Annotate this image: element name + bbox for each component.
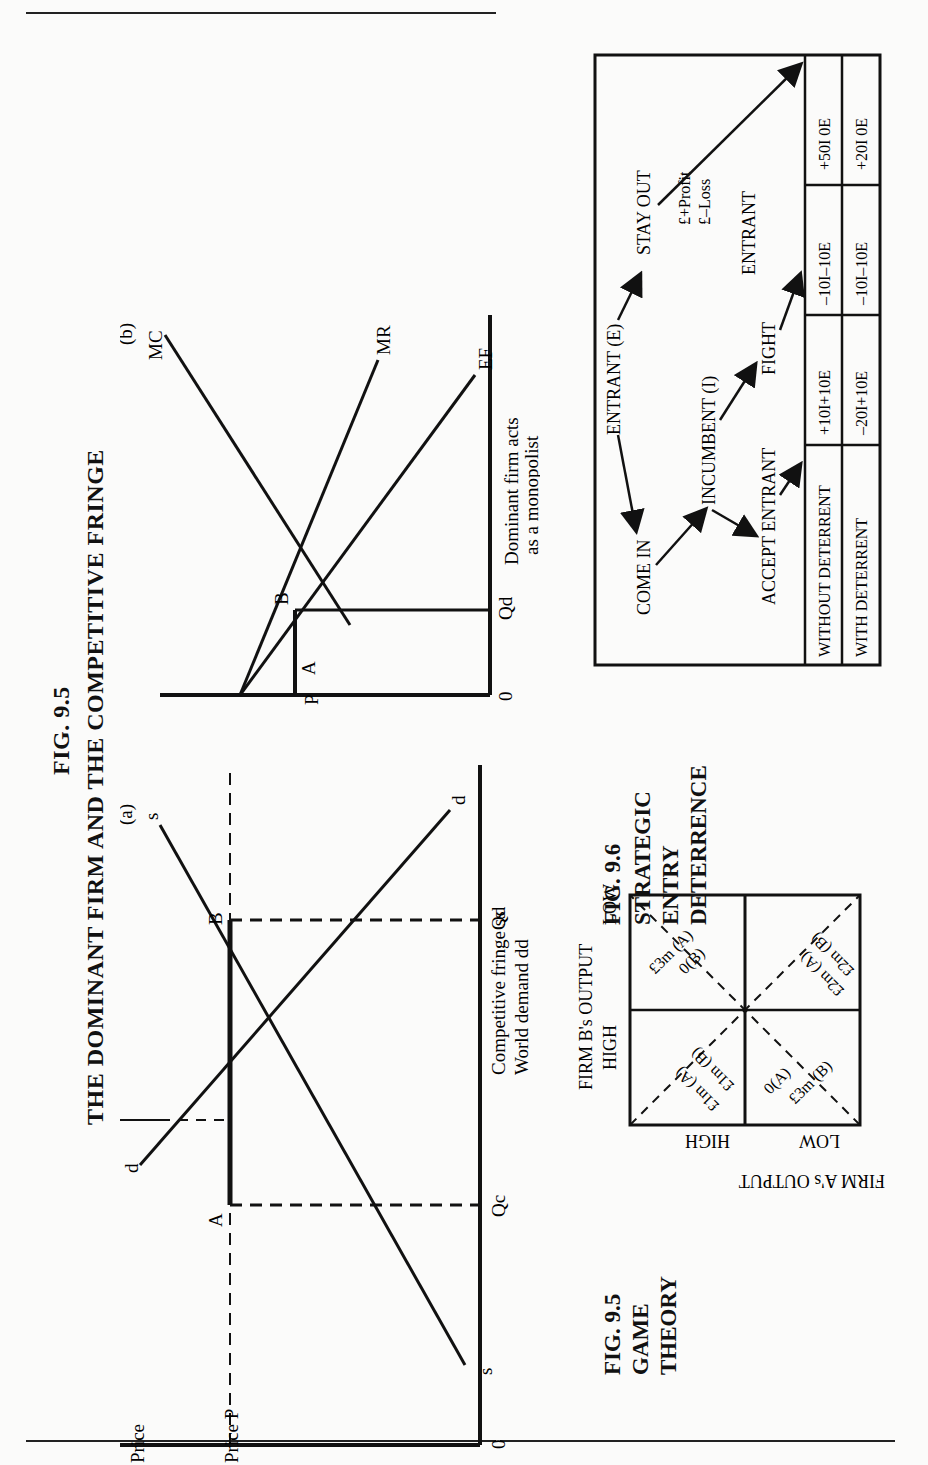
arrow-stay-out-payoff (658, 65, 800, 205)
point-b-label-b: B (271, 592, 292, 605)
qc-label: Qc (488, 1195, 509, 1217)
price-p-label: Price P (221, 1409, 242, 1463)
branch-accept: ACCEPT ENTRANT (759, 448, 779, 605)
game-title-1: GAME (628, 1303, 654, 1375)
fig-9-6-title-3: DETERRENCE (686, 765, 712, 925)
curve-d-right-label: d (448, 795, 469, 805)
branch-come-in: COME IN (634, 540, 654, 616)
price-p-label-b: P (301, 694, 322, 705)
curve-s-bottom-label: s (475, 1368, 496, 1375)
branch-stay-out: STAY OUT (634, 170, 654, 255)
row-with-stay: +20I 0E (853, 118, 870, 170)
rotated-content: FIG. 9.5 THE DOMINANT FIRM AND THE COMPE… (0, 0, 928, 1465)
caption-a-2: World demand dd (511, 939, 532, 1075)
legend-loss: £–Loss (696, 179, 713, 225)
fig-9-5-number: FIG. 9.5 (48, 686, 75, 775)
chart-panel-b: P 0 A B Qd MC EF MR Dominant firm acts a… (120, 285, 540, 705)
panel-a-label: (a) (120, 804, 137, 825)
point-a-label-b: A (298, 661, 319, 675)
caption-a-1: Competitive fringe ss (488, 911, 509, 1075)
point-a-label: A (205, 1213, 226, 1227)
caption-b-2: as a monopolist (521, 435, 540, 555)
chart-panel-a: Price Price P 0 s s d d A B Qc Qd Compet… (120, 745, 540, 1465)
caption-b-1: Dominant firm acts (501, 417, 522, 565)
arrow-to-fight (720, 365, 755, 420)
panel-b-label: (b) (120, 323, 137, 345)
firm-a-label: FIRM A's OUTPUT (739, 1171, 885, 1191)
fig-9-6-title-1: STRATEGIC (630, 791, 656, 925)
fig-9-6-number: FIG. 9.6 (600, 844, 626, 925)
entry-deterrence-tree: ENTRANT (E) COME IN STAY OUT INCUMBENT (… (590, 45, 890, 675)
firm-b-label: FIRM B's OUTPUT (576, 944, 596, 1090)
arrow-to-incumbent (656, 510, 705, 565)
node-incumbent: INCUMBENT (I) (699, 376, 720, 505)
y-axis-label: Price (127, 1424, 148, 1463)
arrow-to-accept (712, 510, 755, 535)
book-page: FIG. 9.5 THE DOMINANT FIRM AND THE COMPE… (0, 0, 928, 1465)
curve-mc-label: MC (145, 330, 166, 360)
fig-9-6-title-2: ENTRY (658, 845, 684, 925)
game-fig-number: FIG. 9.5 (600, 1294, 626, 1375)
row-without-label: WITHOUT DETERRENT (816, 485, 833, 657)
cell-lh-b: £3m (B) (785, 1057, 836, 1108)
row-with-label: WITH DETERRENT (853, 518, 870, 657)
row-high: HIGH (685, 1131, 730, 1151)
origin-label: 0 (488, 1440, 509, 1450)
curve-s-top-label: s (141, 813, 162, 820)
row-without-accept: +10I+10E (816, 370, 833, 435)
col-high: HIGH (600, 1025, 620, 1070)
row-with-fight: –10I–10E (853, 242, 870, 306)
branch-entrant: ENTRANT (739, 191, 759, 275)
arrow-accept-payoff (780, 465, 800, 495)
row-without-stay: +50I 0E (816, 118, 833, 170)
arrow-fight-payoff (780, 275, 800, 330)
game-title-2: THEORY (656, 1276, 682, 1375)
branch-fight: FIGHT (759, 322, 779, 375)
row-with-accept: –20I+10E (853, 371, 870, 436)
row-low: LOW (799, 1131, 840, 1151)
fig-9-5-title: THE DOMINANT FIRM AND THE COMPETITIVE FR… (82, 449, 109, 1125)
curve-ef-label: EF (475, 348, 496, 370)
point-b-label: B (205, 912, 226, 925)
curve-mr-label: MR (373, 325, 394, 355)
origin-label-b: 0 (495, 692, 516, 702)
arrow-to-come-in (618, 435, 636, 530)
curve-d-left-label: d (121, 1163, 142, 1173)
qd-label-b: Qd (495, 596, 516, 620)
node-entrant: ENTRANT (E) (604, 324, 625, 435)
row-without-fight: –10I–10E (816, 242, 833, 306)
arrow-to-stay-out (618, 275, 640, 320)
